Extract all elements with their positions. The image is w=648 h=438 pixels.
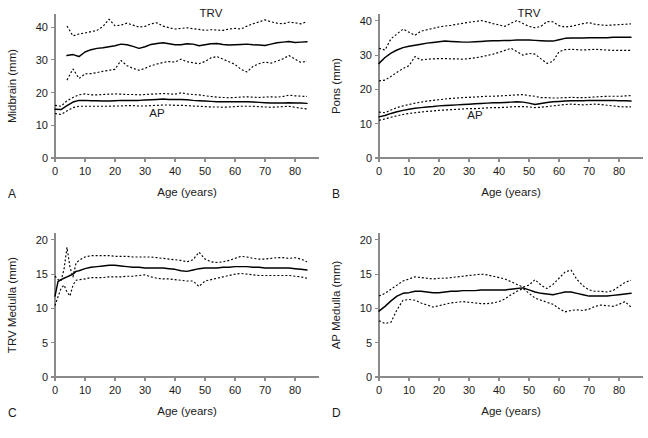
x-tick-label: 10 <box>79 384 91 396</box>
x-axis-title: Age (years) <box>157 186 217 198</box>
y-tick-label: 20 <box>36 87 48 99</box>
chart-panel-b: 01020304001020304050607080TRVAPPons (mm)… <box>324 0 648 219</box>
x-tick-label: 10 <box>79 165 91 177</box>
y-tick-label: 10 <box>360 118 372 130</box>
x-tick-label: 60 <box>229 384 241 396</box>
panel-letter: C <box>8 406 17 420</box>
x-tick-label: 50 <box>523 384 535 396</box>
x-tick-label: 50 <box>523 165 535 177</box>
chart-panel-a: 01020304001020304050607080TRVAPMidbrain … <box>0 0 324 219</box>
y-tick-label: 0 <box>366 371 372 383</box>
x-tick-label: 80 <box>613 165 625 177</box>
x-tick-label: 0 <box>52 384 58 396</box>
series-line-ap-lower-95-ci <box>55 105 307 114</box>
x-tick-label: 30 <box>463 384 475 396</box>
x-tick-label: 40 <box>493 165 505 177</box>
x-tick-label: 20 <box>433 384 445 396</box>
x-tick-label: 0 <box>52 165 58 177</box>
x-tick-label: 70 <box>583 165 595 177</box>
series-annotation-trv: TRV <box>518 7 541 19</box>
series-line-trv-lower-95-ci <box>67 56 307 81</box>
x-tick-label: 70 <box>259 165 271 177</box>
panel-letter: D <box>332 406 341 420</box>
x-axis-title: Age (years) <box>157 405 217 417</box>
x-tick-label: 70 <box>259 384 271 396</box>
chart-svg-c: 0510152001020304050607080TRV Medulla (mm… <box>0 219 324 438</box>
y-tick-label: 10 <box>36 302 48 314</box>
series-line-trv-medulla-mean <box>55 265 307 296</box>
series-line-ap-upper-95-ci <box>379 95 631 113</box>
chart-panel-d: 0510152001020304050607080AP Medulla (mm)… <box>324 219 648 438</box>
y-tick-label: 30 <box>360 49 372 61</box>
x-tick-label: 40 <box>169 384 181 396</box>
x-tick-label: 60 <box>553 384 565 396</box>
y-tick-label: 0 <box>366 152 372 164</box>
chart-svg-d: 0510152001020304050607080AP Medulla (mm)… <box>324 219 648 438</box>
y-tick-label: 5 <box>366 337 372 349</box>
x-tick-label: 70 <box>583 384 595 396</box>
x-tick-label: 40 <box>169 165 181 177</box>
x-tick-label: 0 <box>376 165 382 177</box>
series-line-trv-lower-95-ci <box>379 48 631 81</box>
figure-container: 01020304001020304050607080TRVAPMidbrain … <box>0 0 648 438</box>
series-line-ap-mean <box>379 100 631 116</box>
y-tick-label: 5 <box>42 337 48 349</box>
y-tick-label: 30 <box>36 54 48 66</box>
series-annotation-trv: TRV <box>200 7 223 19</box>
series-line-ap-medulla-upper-95-ci <box>379 270 631 296</box>
x-tick-label: 30 <box>139 165 151 177</box>
x-axis-title: Age (years) <box>481 405 541 417</box>
y-tick-label: 40 <box>360 15 372 27</box>
x-tick-label: 20 <box>109 384 121 396</box>
series-line-ap-lower-95-ci <box>379 104 631 120</box>
x-tick-label: 30 <box>463 165 475 177</box>
y-tick-label: 20 <box>360 83 372 95</box>
y-axis-title: AP Medulla (mm) <box>330 261 342 350</box>
series-annotation-ap: AP <box>467 109 483 121</box>
x-tick-label: 50 <box>199 384 211 396</box>
y-axis-title: Pons (mm) <box>330 58 342 114</box>
series-line-ap-medulla-lower-95-ci <box>379 289 631 324</box>
chart-panel-c: 0510152001020304050607080TRV Medulla (mm… <box>0 219 324 438</box>
y-tick-label: 20 <box>360 234 372 246</box>
series-line-trv-medulla-lower-95-ci <box>55 273 307 305</box>
x-tick-label: 10 <box>403 165 415 177</box>
series-line-trv-upper-95-ci <box>67 19 307 36</box>
x-tick-label: 60 <box>553 165 565 177</box>
y-tick-label: 0 <box>42 152 48 164</box>
chart-svg-b: 01020304001020304050607080TRVAPPons (mm)… <box>324 0 648 219</box>
series-line-trv-mean <box>67 41 307 56</box>
y-tick-label: 10 <box>36 119 48 131</box>
x-tick-label: 50 <box>199 165 211 177</box>
y-tick-label: 0 <box>42 371 48 383</box>
y-tick-label: 20 <box>36 234 48 246</box>
series-annotation-ap: AP <box>149 107 165 119</box>
y-tick-label: 15 <box>360 268 372 280</box>
x-tick-label: 20 <box>433 165 445 177</box>
y-tick-label: 10 <box>360 302 372 314</box>
y-tick-label: 15 <box>36 268 48 280</box>
panel-letter: A <box>8 187 16 201</box>
x-tick-label: 40 <box>493 384 505 396</box>
y-tick-label: 40 <box>36 21 48 33</box>
chart-svg-a: 01020304001020304050607080TRVAPMidbrain … <box>0 0 324 219</box>
x-tick-label: 60 <box>229 165 241 177</box>
x-tick-label: 80 <box>289 384 301 396</box>
series-line-ap-mean <box>55 99 307 109</box>
x-tick-label: 80 <box>289 165 301 177</box>
x-tick-label: 80 <box>613 384 625 396</box>
x-axis-title: Age (years) <box>481 186 541 198</box>
x-tick-label: 10 <box>403 384 415 396</box>
x-tick-label: 0 <box>376 384 382 396</box>
x-tick-label: 20 <box>109 165 121 177</box>
panel-letter: B <box>332 187 340 201</box>
x-tick-label: 30 <box>139 384 151 396</box>
series-line-trv-medulla-upper-95-ci <box>55 247 307 281</box>
y-axis-title: Midbrain (mm) <box>6 49 18 123</box>
y-axis-title: TRV Medulla (mm) <box>6 257 18 353</box>
